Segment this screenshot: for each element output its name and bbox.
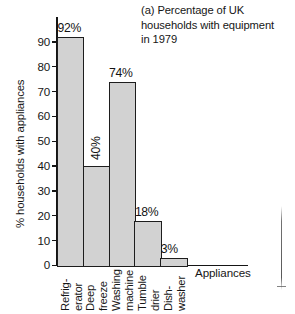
x-category-label-line: Tumble (136, 275, 149, 311)
y-tick-label-text: 40 (16, 159, 50, 172)
y-tick-label-text: 10 (16, 234, 50, 247)
y-tick-label-text: 0 (16, 258, 50, 271)
scan-edge-artifact (281, 206, 282, 290)
y-tick-label-text: 50 (16, 134, 50, 147)
y-tick-mark (52, 265, 56, 266)
y-tick-label: 70 (16, 85, 50, 99)
bar-value-label: 18% (135, 205, 159, 219)
y-tick-mark (52, 116, 56, 117)
y-tick-mark (52, 41, 56, 42)
x-category-label: Dish-washer (162, 276, 187, 311)
y-tick-label: 50 (16, 134, 50, 148)
x-category-label-line: Dish- (162, 276, 175, 311)
x-category-label-line: machine (123, 269, 136, 311)
y-tick-mark (52, 91, 56, 92)
x-category-label: Tumbledrier (136, 275, 161, 311)
bar (57, 37, 84, 267)
y-tick-mark (52, 165, 56, 166)
bar-value-label: 40% (89, 137, 103, 161)
x-category-label: Deepfreeze (84, 281, 109, 311)
x-category-label-line: drier (148, 275, 161, 311)
y-tick-label: 10 (16, 234, 50, 248)
y-tick-label: 40 (16, 159, 50, 173)
bar-value-label: 92% (58, 21, 82, 35)
bar (134, 221, 161, 267)
scan-edge-artifact-tick (277, 286, 286, 287)
y-tick-label-text: 20 (16, 209, 50, 222)
y-tick-mark (52, 141, 56, 142)
y-tick-label: 20 (16, 209, 50, 223)
bar-chart-figure: (a) Percentage of UK households with equ… (0, 0, 295, 314)
bar-value-label: 74% (109, 66, 133, 80)
x-category-label: Refrig-erator (59, 279, 84, 311)
y-tick-mark (52, 240, 56, 241)
y-tick-label-text: 30 (16, 184, 50, 197)
x-category-label-line: Washing (110, 269, 123, 311)
y-tick-mark (52, 215, 56, 216)
y-tick-mark (52, 66, 56, 67)
x-category-label-line: erator (71, 279, 84, 311)
bar (83, 166, 110, 267)
y-tick-label: 90 (16, 35, 50, 49)
x-axis-label: Appliances (195, 266, 251, 279)
y-tick-label: 80 (16, 60, 50, 74)
x-category-label-line: freeze (97, 281, 110, 311)
x-category-label-line: Refrig- (59, 279, 72, 311)
x-category-label-line: Deep (84, 281, 97, 311)
y-tick-label-text: 60 (16, 109, 50, 122)
y-tick-label-text: 70 (16, 85, 50, 98)
x-category-label-line: washer (174, 276, 187, 311)
y-tick-label-text: 80 (16, 60, 50, 73)
bar-value-label: 3% (161, 242, 178, 256)
y-tick-label-text: 90 (16, 35, 50, 48)
y-tick-label: 30 (16, 184, 50, 198)
x-category-label: Washingmachine (110, 269, 135, 311)
y-tick-mark (52, 190, 56, 191)
bar (109, 82, 136, 267)
y-tick-label: 0 (16, 258, 50, 272)
plot-area: 0102030405060708090 92%40%74%18%3% Refri… (0, 0, 295, 314)
y-tick-label: 60 (16, 109, 50, 123)
bar (160, 258, 187, 267)
